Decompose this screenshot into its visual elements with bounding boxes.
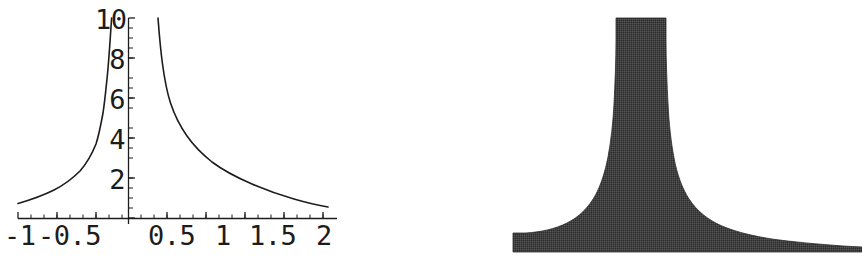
figure-page: 10 8 6 4 2 -1 -0.5 0.5 1 1.5 2 [0, 0, 862, 266]
right-panel [431, 0, 862, 266]
y-tick-label-8: 8 [95, 46, 125, 73]
x-tick-label-minus-1: -1 [4, 222, 36, 249]
y-tick-label-10: 10 [95, 6, 125, 33]
x-tick-label-1: 1 [215, 222, 231, 249]
x-tick-label-1-5: 1.5 [249, 222, 296, 249]
y-tick-label-2: 2 [95, 166, 125, 193]
x-tick-label-0-5: 0.5 [148, 222, 195, 249]
shaded-reciprocal-region [513, 18, 862, 252]
y-tick-label-4: 4 [95, 126, 125, 153]
right-plot-svg [431, 0, 862, 266]
y-axis-minor-ticks [129, 28, 134, 208]
x-tick-label-minus-0-5: -0.5 [38, 222, 101, 249]
x-axis-major-ticks [18, 212, 323, 219]
curve-right-branch [158, 18, 328, 207]
x-tick-label-2: 2 [316, 222, 332, 249]
left-panel: 10 8 6 4 2 -1 -0.5 0.5 1 1.5 2 [0, 0, 431, 266]
y-tick-label-6: 6 [95, 86, 125, 113]
